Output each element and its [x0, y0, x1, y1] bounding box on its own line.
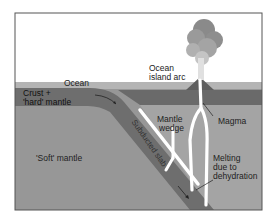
label-melting-line3: dehydration	[213, 172, 257, 181]
label-ocean: Ocean	[64, 79, 89, 88]
label-soft-mantle: 'Soft' mantle	[36, 154, 82, 163]
label-mantle-wedge-line2: wedge	[159, 124, 184, 133]
label-island-arc-line2: island arc	[149, 73, 185, 82]
overriding-plate-crust	[118, 90, 262, 105]
ocean-band	[15, 82, 262, 89]
subduction-diagram: Ocean Crust + 'hard' mantle 'Soft' mantl…	[0, 0, 277, 224]
label-magma: Magma	[218, 117, 246, 126]
label-crust-line2: 'hard' mantle	[23, 98, 71, 107]
